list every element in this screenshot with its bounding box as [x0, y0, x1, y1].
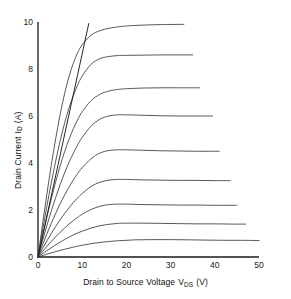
- curve-7: [38, 204, 237, 257]
- x-axis-title: Drain to Source VoltageVDS(V): [0, 277, 291, 288]
- x-tick-20: 20: [122, 261, 131, 270]
- y-tick-10: 10: [17, 18, 33, 27]
- curve-5: [38, 150, 219, 257]
- curve-group: [38, 24, 259, 257]
- x-tick-50: 50: [254, 261, 263, 270]
- saturation-locus: [38, 23, 89, 257]
- y-axis-title: Drain CurrentID(A): [13, 85, 24, 215]
- x-tick-10: 10: [77, 261, 86, 270]
- y-tick-8: 8: [21, 65, 33, 74]
- curve-2: [38, 55, 193, 257]
- x-axis-title-text: Drain to Source Voltage: [83, 277, 175, 287]
- x-tick-30: 30: [166, 261, 175, 270]
- y-axis-unit: (A): [13, 112, 23, 124]
- x-tick-0: 0: [36, 261, 41, 270]
- y-axis-symbol: I: [13, 131, 23, 133]
- x-axis-subscript: DS: [184, 281, 193, 288]
- x-axis-unit: (V): [196, 277, 208, 287]
- axis-lines: [38, 22, 259, 257]
- plot-area: [0, 0, 291, 299]
- y-tick-0: 0: [21, 253, 33, 262]
- curve-3: [38, 88, 199, 257]
- y-axis-title-text: Drain Current: [13, 137, 23, 189]
- locus-group: [38, 23, 89, 257]
- x-tick-40: 40: [210, 261, 219, 270]
- chart-figure: 0 10 20 30 40 50 0 2 4 6 8 10 Drain to S…: [0, 0, 291, 299]
- y-axis-subscript: D: [16, 126, 23, 131]
- curve-9: [38, 240, 259, 257]
